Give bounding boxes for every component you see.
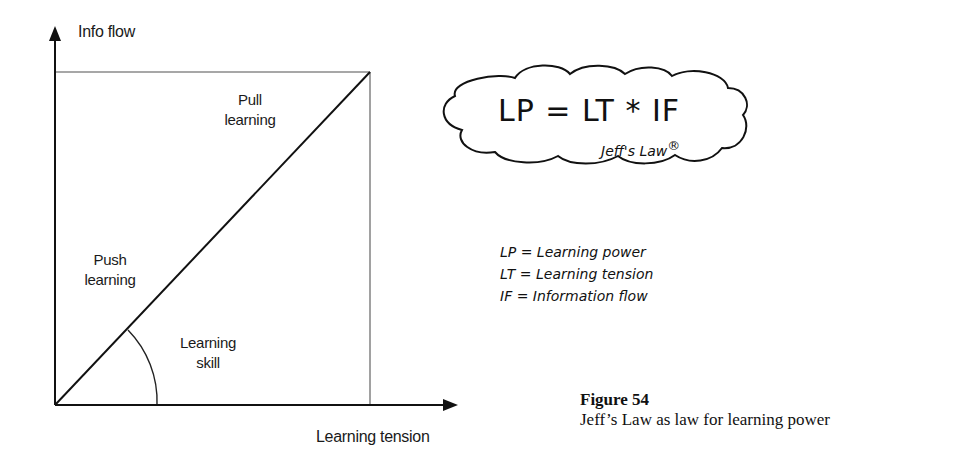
push-learning-line2: learning [65, 270, 155, 290]
registered-mark-icon: ® [667, 138, 680, 153]
learning-skill-line2: skill [163, 353, 253, 373]
pull-learning-line2: learning [205, 110, 295, 130]
formula-text: LP = LT * IF [498, 93, 680, 128]
y-axis-arrow-icon [49, 26, 61, 41]
push-learning-label: Push learning [65, 250, 155, 290]
learning-skill-label: Learning skill [163, 333, 253, 373]
x-axis-label: Learning tension [316, 427, 430, 447]
legend: LP = Learning power LT = Learning tensio… [500, 241, 653, 307]
x-axis-arrow-icon [443, 399, 458, 411]
jeffs-law-signature: Jeff's Law® [601, 138, 680, 159]
legend-item-if: IF = Information flow [500, 285, 653, 307]
y-axis-label: Info flow [78, 22, 135, 42]
angle-arc [128, 330, 157, 405]
diagram-canvas [0, 0, 958, 473]
legend-item-lp: LP = Learning power [500, 241, 653, 263]
push-learning-line1: Push [65, 250, 155, 270]
learning-skill-line1: Learning [163, 333, 253, 353]
pull-learning-line1: Pull [205, 90, 295, 110]
figure-number: Figure 54 [580, 390, 649, 410]
figure-caption: Jeff’s Law as law for learning power [580, 410, 830, 430]
signature-text: Jeff's Law [601, 143, 667, 159]
legend-item-lt: LT = Learning tension [500, 263, 653, 285]
pull-learning-label: Pull learning [205, 90, 295, 130]
